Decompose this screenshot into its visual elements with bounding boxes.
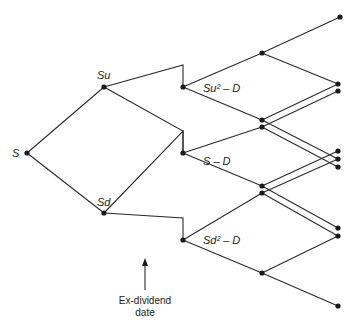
tree-edge bbox=[262, 193, 338, 236]
tree-node-c2 bbox=[259, 270, 264, 275]
tree-edge bbox=[104, 213, 183, 240]
tree-node-f4 bbox=[335, 148, 340, 153]
tree-node-f9 bbox=[335, 303, 340, 308]
tree-node-b2 bbox=[259, 183, 264, 188]
tree-edge bbox=[262, 273, 338, 306]
tree-node-f8 bbox=[335, 233, 340, 238]
tree-node-f2 bbox=[335, 81, 340, 86]
tree-edge bbox=[104, 65, 183, 87]
tree-edge bbox=[262, 127, 338, 167]
tree-node-c1 bbox=[259, 190, 264, 195]
label-root: S bbox=[12, 147, 20, 159]
label-mid-minus-dividend: S – D bbox=[203, 155, 231, 167]
tree-edges bbox=[27, 17, 340, 306]
tree-edge bbox=[262, 91, 338, 127]
tree-node-f5 bbox=[335, 156, 340, 161]
tree-node-su bbox=[101, 84, 106, 89]
tree-node-a bbox=[180, 84, 185, 89]
tree-edge bbox=[262, 186, 338, 228]
tree-edge bbox=[262, 17, 340, 53]
label-downdown-minus-dividend: Sd² – D bbox=[203, 234, 240, 246]
tree-node-f3 bbox=[335, 88, 340, 93]
tree-edge bbox=[262, 159, 338, 193]
tree-edge bbox=[262, 151, 338, 186]
tree-edge bbox=[262, 53, 338, 84]
label-up: Su bbox=[97, 69, 110, 81]
arrow-head-icon bbox=[142, 258, 148, 266]
binomial-tree-diagram: S Su Sd Su² – D S – D Sd² – D Ex-dividen… bbox=[0, 0, 356, 323]
ex-dividend-caption-line2: date bbox=[135, 307, 155, 318]
ex-dividend-arrow bbox=[142, 258, 148, 290]
tree-node-f1 bbox=[337, 14, 342, 19]
label-down: Sd bbox=[97, 196, 111, 208]
tree-node-a2 bbox=[259, 117, 264, 122]
tree-node-b1 bbox=[259, 124, 264, 129]
tree-node-sd bbox=[101, 210, 106, 215]
tree-edge bbox=[183, 127, 262, 153]
tree-edge bbox=[27, 153, 104, 213]
tree-node-c bbox=[180, 237, 185, 242]
tree-node-s bbox=[24, 150, 29, 155]
tree-node-b bbox=[180, 150, 185, 155]
tree-edge bbox=[183, 193, 262, 240]
tree-edge bbox=[104, 131, 183, 213]
tree-edge bbox=[27, 87, 104, 153]
tree-node-f6 bbox=[335, 164, 340, 169]
tree-nodes bbox=[24, 14, 342, 308]
tree-edge bbox=[262, 120, 338, 159]
tree-node-a1 bbox=[259, 50, 264, 55]
tree-node-f7 bbox=[335, 225, 340, 230]
tree-edge bbox=[262, 236, 338, 273]
tree-edge bbox=[262, 84, 338, 120]
label-upup-minus-dividend: Su² – D bbox=[203, 82, 240, 94]
ex-dividend-caption-line1: Ex-dividend bbox=[119, 295, 171, 306]
